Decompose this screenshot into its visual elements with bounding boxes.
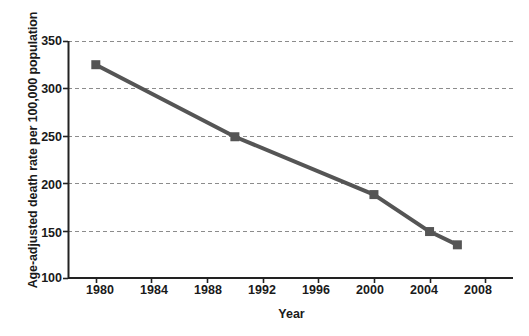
plot-area bbox=[0, 0, 529, 336]
data-point-2004 bbox=[425, 227, 434, 236]
y-axis-ticks bbox=[63, 42, 68, 279]
data-point-1990 bbox=[230, 132, 239, 141]
data-point-1980 bbox=[91, 60, 100, 69]
data-point-2006 bbox=[453, 240, 462, 249]
data-point-2000 bbox=[369, 190, 378, 199]
gridlines bbox=[68, 42, 516, 232]
chart-figure: Age-adjusted death rate per 100,000 popu… bbox=[0, 0, 529, 336]
series-line-death-rate bbox=[96, 65, 458, 245]
